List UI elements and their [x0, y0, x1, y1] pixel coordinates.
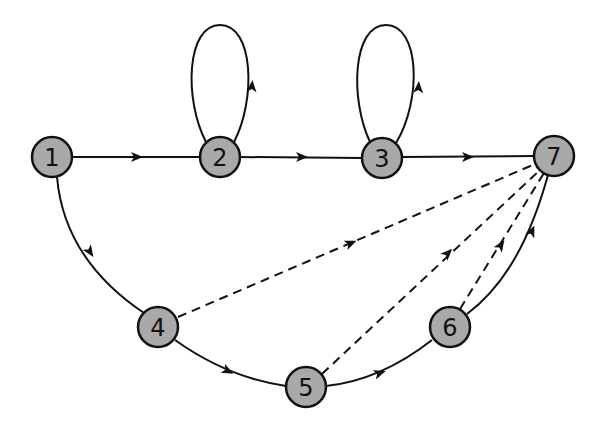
edge-2-3: [240, 157, 362, 158]
edge-5-6: [326, 340, 432, 386]
node-5: 5: [286, 367, 326, 407]
node-1-label: 1: [44, 144, 59, 172]
edge-6-7-dashed: [460, 173, 544, 309]
edge-3-self-loop: [357, 25, 418, 143]
node-2: 2: [200, 137, 240, 177]
node-6: 6: [430, 307, 470, 347]
edge-4-5: [175, 340, 286, 386]
node-6-label: 6: [442, 314, 457, 342]
graph-diagram: 1 2 3 4 5 6 7: [0, 0, 604, 429]
edge-2-self-loop: [192, 25, 252, 142]
edge-1-4: [57, 177, 144, 313]
node-7: 7: [534, 136, 574, 176]
node-7-label: 7: [546, 143, 561, 171]
node-3-label: 3: [374, 145, 389, 173]
node-1: 1: [32, 137, 72, 177]
node-4: 4: [138, 307, 178, 347]
edge-3-7: [402, 156, 534, 157]
node-4-label: 4: [150, 314, 165, 342]
node-5-label: 5: [298, 374, 313, 402]
edge-4-7-dashed: [178, 164, 535, 317]
node-3: 3: [362, 138, 402, 178]
node-2-label: 2: [212, 144, 227, 172]
edge-6-7: [467, 175, 548, 314]
